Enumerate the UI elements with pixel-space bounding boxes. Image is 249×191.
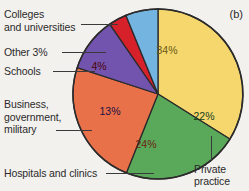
leader-line-schools	[53, 71, 95, 72]
slice-value-business-government-military: 13%	[99, 105, 120, 117]
callout-label-business-government-military: Business, government, military	[4, 98, 61, 136]
panel-letter: (b)	[230, 8, 243, 20]
callout-label-hospitals-and-clinics: Hospitals and clinics	[4, 167, 97, 180]
slice-value-private-practice: 22%	[193, 110, 214, 122]
callout-label-private-practice: Private practice	[194, 163, 230, 187]
leader-line-hospitals	[106, 173, 154, 174]
leader-line-private-practice	[211, 136, 212, 160]
callout-label-other: Other 3%	[4, 46, 48, 59]
slice-value-colleges-and-universities: 34%	[156, 44, 177, 56]
leader-line-colleges	[81, 24, 118, 25]
leader-line-other	[62, 52, 106, 53]
callout-label-colleges-and-universities: Colleges and universities	[4, 8, 75, 33]
leader-line-business	[56, 130, 92, 131]
callout-label-schools: Schools	[4, 65, 41, 78]
slice-value-hospitals-and-clinics: 24%	[135, 138, 156, 150]
pie-chart-figure: 34% 22% 24% 13% 4% Colleges and universi…	[0, 0, 249, 191]
